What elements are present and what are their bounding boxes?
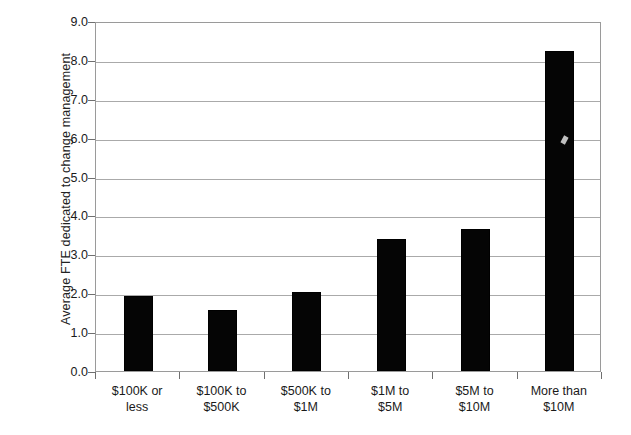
- x-category-label-line: $5M: [348, 399, 432, 415]
- bar: [377, 239, 406, 371]
- x-category-label-line: $5M to: [432, 383, 516, 399]
- x-tick-mark: [601, 372, 602, 379]
- bars-layer: [96, 23, 600, 371]
- x-category-label-line: $1M: [264, 399, 348, 415]
- x-category-label-line: $100K to: [179, 383, 263, 399]
- x-category-label: More than$10M: [517, 383, 601, 415]
- x-tick-mark: [517, 372, 518, 379]
- x-category-label-line: More than: [517, 383, 601, 399]
- y-tick-mark: [88, 22, 95, 23]
- x-category-label: $100K orless: [95, 383, 179, 415]
- x-tick-mark: [348, 372, 349, 379]
- y-tick-mark: [88, 178, 95, 179]
- x-category-label-line: $100K or: [95, 383, 179, 399]
- x-tick-mark: [95, 372, 96, 379]
- y-tick-mark: [88, 255, 95, 256]
- y-axis-title: Average FTE dedicated to change manageme…: [59, 19, 73, 359]
- y-tick-label: 4.0: [48, 209, 88, 223]
- plot-area: [95, 22, 601, 372]
- x-category-label-line: less: [95, 399, 179, 415]
- y-tick-mark: [88, 100, 95, 101]
- x-category-label: $1M to$5M: [348, 383, 432, 415]
- y-tick-mark: [88, 61, 95, 62]
- y-tick-mark: [88, 294, 95, 295]
- x-category-label: $100K to$500K: [179, 383, 263, 415]
- y-tick-label: 1.0: [48, 326, 88, 340]
- y-tick-label: 3.0: [48, 248, 88, 262]
- x-category-label-line: $500K: [179, 399, 263, 415]
- x-category-label-line: $10M: [432, 399, 516, 415]
- x-category-label-line: $1M to: [348, 383, 432, 399]
- bar: [208, 310, 237, 371]
- y-tick-label: 7.0: [48, 93, 88, 107]
- x-tick-mark: [179, 372, 180, 379]
- x-tick-mark: [432, 372, 433, 379]
- x-category-label: $500K to$1M: [264, 383, 348, 415]
- y-tick-mark: [88, 216, 95, 217]
- y-tick-label: 0.0: [48, 365, 88, 379]
- x-category-label: $5M to$10M: [432, 383, 516, 415]
- y-tick-label: 9.0: [48, 15, 88, 29]
- x-tick-mark: [264, 372, 265, 379]
- x-category-label-line: $10M: [517, 399, 601, 415]
- bar: [461, 229, 490, 371]
- bar: [292, 292, 321, 371]
- y-tick-mark: [88, 372, 95, 373]
- bar: [545, 51, 574, 371]
- bar: [124, 296, 153, 371]
- y-tick-label: 8.0: [48, 54, 88, 68]
- y-tick-mark: [88, 333, 95, 334]
- x-category-label-line: $500K to: [264, 383, 348, 399]
- y-tick-label: 2.0: [48, 287, 88, 301]
- bar-chart: Average FTE dedicated to change manageme…: [0, 0, 631, 435]
- y-tick-mark: [88, 139, 95, 140]
- y-tick-label: 6.0: [48, 132, 88, 146]
- y-tick-label: 5.0: [48, 171, 88, 185]
